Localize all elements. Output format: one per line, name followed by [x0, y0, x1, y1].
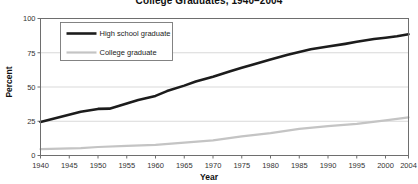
x-tick-label-1950: 1950 [90, 161, 107, 170]
x-tick-label-1970: 1970 [205, 161, 222, 170]
series-line-college-graduate [41, 117, 409, 149]
legend-label-1: College graduate [100, 48, 157, 57]
x-tick-label-1985: 1985 [291, 161, 308, 170]
x-tick-label-1990: 1990 [320, 161, 337, 170]
chart-container: College Graduates, 1940–2004 Percent Yea… [0, 0, 418, 184]
x-tick-label-1945: 1945 [61, 161, 78, 170]
chart-legend: High school graduateCollege graduate [61, 23, 173, 61]
gridlines [41, 53, 409, 122]
x-tick-label-1940: 1940 [32, 161, 49, 170]
x-tick-label-1960: 1960 [147, 161, 164, 170]
x-tick-label-1995: 1995 [348, 161, 365, 170]
x-tick-label-2004: 2004 [400, 161, 417, 170]
y-tick-label-50: 50 [27, 83, 35, 92]
y-tick-label-75: 75 [27, 49, 35, 58]
x-tick-label-1980: 1980 [262, 161, 279, 170]
x-tick-label-1965: 1965 [176, 161, 193, 170]
x-tick-label-2000: 2000 [377, 161, 394, 170]
x-tick-label-1975: 1975 [233, 161, 250, 170]
plot-area: 0255075100 19401945195019551960196519701… [0, 0, 418, 184]
legend-label-0: High school graduate [100, 29, 171, 38]
y-tick-label-25: 25 [27, 117, 35, 126]
x-axis-ticks: 1940194519501955196019651970197519801985… [32, 156, 417, 170]
y-tick-label-100: 100 [23, 14, 36, 23]
y-axis-ticks: 0255075100 [23, 14, 41, 160]
x-tick-label-1955: 1955 [118, 161, 135, 170]
y-tick-label-0: 0 [31, 151, 35, 160]
